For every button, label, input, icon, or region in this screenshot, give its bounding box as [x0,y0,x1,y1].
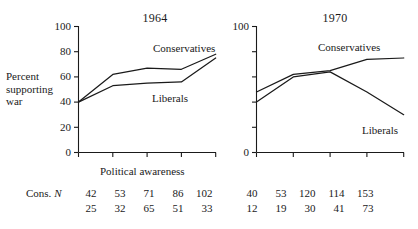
ytick-label-1964-100: 100 [45,20,71,32]
series-label-liberals-1970: Liberals [362,124,398,136]
n-cell: 33 [183,201,212,216]
n-table-panel-gap [212,201,228,216]
series-line-liberals-1970 [257,72,404,115]
n-cell: 42 [67,186,96,201]
y-axis-caption-line-2: supporting [6,83,53,96]
n-table-row-header-prefix: Cons. [26,187,51,199]
figure-root: 1964 1970 Percent supporting war 100 80 … [0,0,418,229]
n-cell: 120 [286,186,315,201]
n-table: Cons. N 42 53 71 86 102 40 53 120 114 15… [26,186,373,216]
n-cell: 53 [257,186,286,201]
y-ticks-1970 [252,27,257,153]
n-cell: 30 [286,201,315,216]
n-cell: 25 [67,201,96,216]
n-cell: 153 [344,186,373,201]
series-line-conservatives-1964 [79,54,216,102]
y-ticks-1964 [74,27,79,153]
series-label-liberals-1964: Liberals [152,92,188,104]
n-cell: 73 [344,201,373,216]
x-ticks-1970 [257,153,404,158]
n-cell: 86 [154,186,183,201]
table-row: Cons. N 42 53 71 86 102 40 53 120 114 15… [26,186,373,201]
n-table-row-header-empty [26,201,67,216]
x-axis-label: Political awareness [100,165,185,177]
panel-title-1970: 1970 [300,11,370,26]
n-cell: 114 [315,186,344,201]
series-line-liberals-1964 [79,58,216,102]
n-cell: 53 [96,186,125,201]
n-table-row-header: Cons. N [26,186,67,201]
n-cell: 32 [96,201,125,216]
ytick-label-1964-80: 80 [45,45,71,57]
ytick-label-1970-100: 100 [223,20,249,32]
ytick-label-1964-20: 20 [45,121,71,133]
series-label-conservatives-1970: Conservatives [318,41,380,53]
n-table-row-header-symbol: N [54,187,61,199]
n-cell: 65 [125,201,154,216]
n-cell: 40 [228,186,257,201]
ytick-label-1964-60: 60 [45,70,71,82]
ytick-label-1964-40: 40 [45,95,71,107]
x-ticks-1964 [79,153,216,158]
series-label-conservatives-1964: Conservatives [153,42,215,54]
n-cell: 12 [228,201,257,216]
ytick-label-1970-0: 0 [223,146,249,158]
n-cell: 71 [125,186,154,201]
ytick-label-1964-0: 0 [45,146,71,158]
table-row: 25 32 65 51 33 12 19 30 41 73 [26,201,373,216]
n-cell: 19 [257,201,286,216]
n-cell: 102 [183,186,212,201]
panel-title-1964: 1964 [120,11,190,26]
n-table-panel-gap [212,186,228,201]
n-cell: 41 [315,201,344,216]
n-table-wrap: Cons. N 42 53 71 86 102 40 53 120 114 15… [0,186,418,229]
n-cell: 51 [154,201,183,216]
